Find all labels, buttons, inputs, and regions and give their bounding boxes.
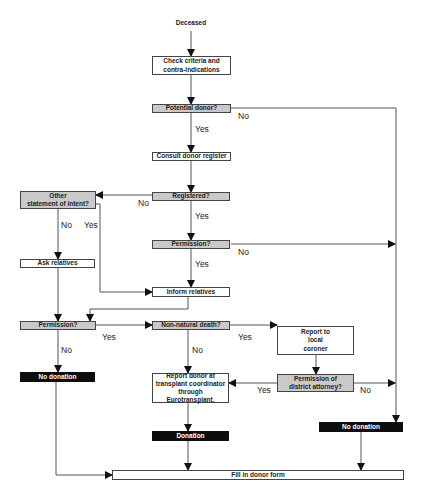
da-yes-label: Yes <box>257 385 271 395</box>
other-statement-decision: Other statement of intent? <box>20 191 96 209</box>
permission-decision-1: Permission? <box>152 240 230 249</box>
other-yes-label: Yes <box>84 220 98 230</box>
permission-decision-2: Permission? <box>20 321 96 330</box>
registered-decision: Registered? <box>152 192 230 201</box>
report-coroner-label: Report to local coroner <box>301 328 330 352</box>
other-no-label: No <box>61 220 72 230</box>
nonnatural-yes-label: Yes <box>238 332 252 342</box>
non-natural-death-decision: Non-natural death? <box>152 321 230 330</box>
no-donation-right-terminal: No donation <box>319 422 403 432</box>
potential-donor-label: Potential donor? <box>166 104 218 112</box>
report-donor-node: Report donor at transplant coordinator t… <box>152 373 229 403</box>
registered-yes-label: Yes <box>195 211 209 221</box>
non-natural-death-label: Non-natural death? <box>161 321 221 329</box>
permission-1-label: Permission? <box>171 240 210 248</box>
permission1-yes-label: Yes <box>195 259 209 269</box>
registered-no-label: No <box>138 198 149 208</box>
report-donor-label: Report donor at transplant coordinator t… <box>156 372 225 405</box>
registered-label: Registered? <box>172 192 210 200</box>
no-donation-left-label: No donation <box>39 373 77 381</box>
potential-no-label: No <box>238 111 249 121</box>
donation-label: Donation <box>176 432 204 440</box>
fill-donor-form-node: Fill in donor form <box>112 470 404 480</box>
ask-relatives-node: Ask relatives <box>20 259 95 268</box>
potential-yes-label: Yes <box>195 124 209 134</box>
nonnatural-no-label: No <box>192 345 203 355</box>
ask-relatives-label: Ask relatives <box>37 259 77 267</box>
consult-register-label: Consult donor register <box>156 152 226 160</box>
report-coroner-node: Report to local coroner <box>277 326 354 355</box>
no-donation-right-label: No donation <box>342 423 380 431</box>
inform-relatives-label: Inform relatives <box>167 288 215 296</box>
inform-relatives-node: Inform relatives <box>152 287 230 297</box>
no-donation-left-terminal: No donation <box>20 372 95 382</box>
deceased-label: Deceased <box>176 19 206 27</box>
permission-da-label: Permission of district attorney? <box>289 375 342 391</box>
fill-form-label: Fill in donor form <box>231 471 284 479</box>
deceased-node: Deceased <box>160 17 222 29</box>
potential-donor-decision: Potential donor? <box>152 104 231 113</box>
permission1-no-label: No <box>238 247 249 257</box>
other-statement-label: Other statement of intent? <box>27 192 89 208</box>
permission2-yes-label: Yes <box>102 332 116 342</box>
da-no-label: No <box>360 385 371 395</box>
check-criteria-node: Check criteria and contra-indications <box>152 56 231 75</box>
permission-district-attorney-decision: Permission of district attorney? <box>277 374 354 392</box>
consult-register-node: Consult donor register <box>152 152 231 161</box>
check-criteria-label: Check criteria and contra-indications <box>163 57 219 73</box>
permission-2-label: Permission? <box>38 321 77 329</box>
donation-terminal: Donation <box>152 431 229 441</box>
permission2-no-label: No <box>61 345 72 355</box>
